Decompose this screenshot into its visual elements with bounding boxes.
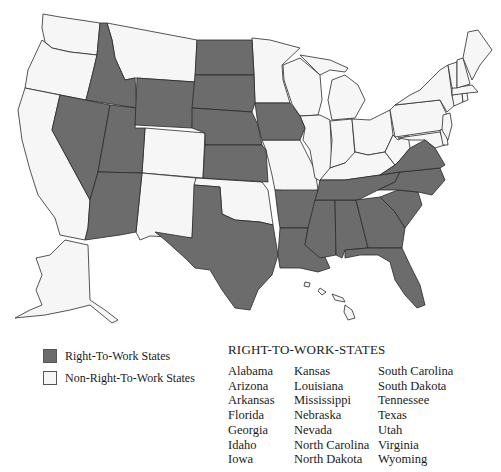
state-hawaii	[304, 282, 355, 320]
list-item: Virginia	[378, 438, 453, 453]
list-item: Arizona	[228, 379, 294, 394]
list-item: South Carolina	[378, 364, 453, 379]
legend-label: Right-To-Work States	[65, 349, 170, 364]
state-pennsylvania	[390, 100, 447, 137]
list-item: Georgia	[228, 423, 294, 438]
list-item: North Carolina	[294, 438, 378, 453]
rtw-state-list: RIGHT-TO-WORK-STATES Alabama Arizona Ark…	[228, 342, 453, 467]
list-item: Iowa	[228, 452, 294, 467]
list-item: Tennessee	[378, 393, 453, 408]
dark-swatch-icon	[43, 349, 57, 363]
list-item: Texas	[378, 408, 453, 423]
list-item: Arkansas	[228, 393, 294, 408]
legend-item-right-to-work: Right-To-Work States	[43, 345, 195, 367]
list-item: Alabama	[228, 364, 294, 379]
state-maine	[463, 30, 492, 80]
map-legend: Right-To-Work States Non-Right-To-Work S…	[43, 345, 195, 389]
list-column-1: Alabama Arizona Arkansas Florida Georgia…	[228, 364, 294, 467]
list-item: Wyoming	[378, 452, 453, 467]
list-item: Nebraska	[294, 408, 378, 423]
list-column-3: South Carolina South Dakota Tennessee Te…	[378, 364, 453, 467]
list-title: RIGHT-TO-WORK-STATES	[228, 342, 453, 358]
list-item: Kansas	[294, 364, 378, 379]
state-colorado	[142, 128, 205, 178]
list-item: Mississippi	[294, 393, 378, 408]
list-item: Nevada	[294, 423, 378, 438]
list-item: South Dakota	[378, 379, 453, 394]
state-kansas	[203, 145, 268, 182]
legend-item-non-right-to-work: Non-Right-To-Work States	[43, 367, 195, 389]
state-wyoming	[135, 78, 195, 128]
state-rhode-island	[462, 93, 468, 102]
list-item: Florida	[228, 408, 294, 423]
state-north-dakota	[195, 40, 254, 75]
list-item: North Dakota	[294, 452, 378, 467]
list-item: Utah	[378, 423, 453, 438]
state-new-mexico	[136, 173, 196, 240]
state-florida	[345, 248, 425, 308]
us-map	[0, 0, 501, 340]
light-swatch-icon	[43, 371, 57, 385]
list-column-2: Kansas Louisiana Mississippi Nebraska Ne…	[294, 364, 378, 467]
state-alaska	[15, 240, 118, 323]
list-item: Louisiana	[294, 379, 378, 394]
state-south-dakota	[192, 75, 255, 112]
legend-label: Non-Right-To-Work States	[65, 371, 195, 386]
list-item: Idaho	[228, 438, 294, 453]
